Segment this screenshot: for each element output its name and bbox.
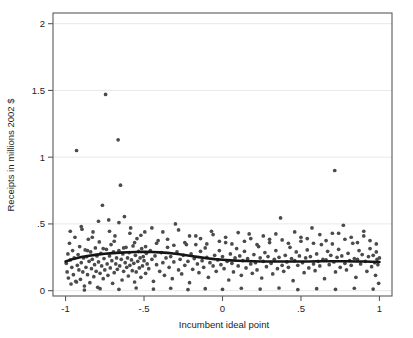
data-point (170, 277, 174, 281)
data-point (94, 269, 98, 273)
data-point (117, 221, 121, 225)
data-point (238, 254, 242, 258)
data-point (177, 268, 181, 272)
data-point (107, 218, 111, 222)
data-point (133, 241, 137, 245)
data-point (327, 263, 331, 267)
data-point (207, 275, 211, 279)
data-point (97, 240, 101, 244)
data-point (126, 256, 130, 260)
data-point (102, 257, 106, 261)
gridlines-group (53, 24, 392, 291)
data-point (142, 259, 146, 263)
data-point (161, 261, 165, 265)
data-point (203, 246, 207, 250)
data-point (305, 248, 309, 252)
data-point (312, 241, 316, 245)
data-point (331, 231, 335, 235)
data-point (100, 264, 104, 268)
data-point (128, 231, 132, 235)
data-point (283, 253, 287, 257)
data-point (249, 262, 253, 266)
data-point (247, 232, 251, 236)
data-point (199, 249, 203, 253)
data-point (86, 249, 90, 253)
data-point (150, 226, 154, 230)
data-point (377, 281, 381, 285)
data-point (98, 271, 102, 275)
data-point (349, 263, 353, 267)
data-point (141, 264, 145, 268)
data-point (118, 264, 122, 268)
data-point (71, 249, 75, 253)
data-point (360, 253, 364, 257)
data-point (334, 270, 338, 274)
data-point (309, 255, 313, 259)
data-point (197, 271, 201, 275)
data-point (117, 287, 121, 291)
chart-canvas: -1-.50.51 0.511.52 Incumbent ideal point… (0, 0, 413, 338)
data-point (180, 272, 184, 276)
data-point (131, 244, 135, 248)
data-point (183, 263, 187, 267)
data-point (83, 288, 87, 292)
data-point (356, 241, 360, 245)
data-point (132, 261, 136, 265)
data-point (177, 228, 181, 232)
data-point (277, 286, 281, 290)
data-point (108, 266, 112, 270)
data-point (229, 252, 233, 256)
data-point (310, 226, 314, 230)
data-point (116, 267, 120, 271)
data-point (296, 263, 300, 267)
data-point (218, 239, 222, 243)
data-point (104, 93, 108, 97)
data-point (140, 247, 144, 251)
data-point (97, 260, 101, 264)
data-point (224, 241, 228, 245)
data-point (249, 237, 253, 241)
data-point (105, 247, 109, 251)
data-point (86, 273, 90, 277)
data-point (326, 249, 330, 253)
data-point (221, 287, 225, 291)
data-point (137, 266, 141, 270)
data-point (126, 274, 130, 278)
data-point (169, 286, 173, 290)
data-point (68, 229, 72, 233)
data-point (342, 223, 346, 227)
data-point (134, 253, 138, 257)
data-point (123, 261, 127, 265)
data-point (122, 246, 126, 250)
data-point (351, 241, 355, 245)
data-point (128, 263, 132, 267)
data-point (164, 256, 168, 260)
data-point (114, 262, 118, 266)
data-point (200, 259, 204, 263)
data-point (75, 149, 79, 153)
data-point (260, 276, 264, 280)
data-point (90, 267, 94, 271)
data-point (188, 234, 192, 238)
data-point (153, 254, 157, 258)
data-point (97, 219, 101, 223)
data-point (252, 253, 256, 257)
data-point (343, 237, 347, 241)
data-point (318, 233, 322, 237)
data-point (302, 271, 306, 275)
data-point (186, 288, 190, 292)
data-point (323, 277, 327, 281)
data-point (298, 254, 302, 258)
data-point (119, 257, 123, 261)
data-point (135, 237, 139, 241)
data-point (354, 275, 358, 279)
data-point (79, 261, 83, 265)
data-point (183, 241, 187, 245)
data-point (244, 266, 248, 270)
data-point (287, 265, 291, 269)
data-point (87, 259, 91, 263)
data-point (211, 264, 215, 268)
data-point (115, 256, 119, 260)
data-point (276, 267, 280, 271)
data-point (352, 286, 356, 290)
